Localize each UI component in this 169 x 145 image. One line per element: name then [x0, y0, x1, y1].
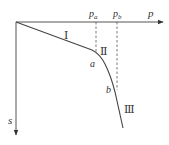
pa-label: pa — [88, 8, 98, 21]
stage-2-label: Ⅱ — [100, 45, 107, 57]
stage-1-label: Ⅰ — [64, 29, 68, 41]
load-settlement-curve — [16, 22, 123, 128]
p-s-curve-diagram: p s pa pb a b Ⅰ Ⅱ Ⅲ — [0, 0, 169, 145]
point-a-label: a — [90, 58, 95, 69]
s-axis-label: s — [8, 114, 12, 126]
pa-label-sub: a — [94, 13, 98, 21]
pb-label: pb — [112, 8, 122, 21]
point-b-label: b — [106, 84, 111, 95]
stage-3-label: Ⅲ — [124, 103, 135, 115]
p-axis-label: p — [147, 7, 154, 19]
pb-label-sub: b — [118, 13, 122, 21]
